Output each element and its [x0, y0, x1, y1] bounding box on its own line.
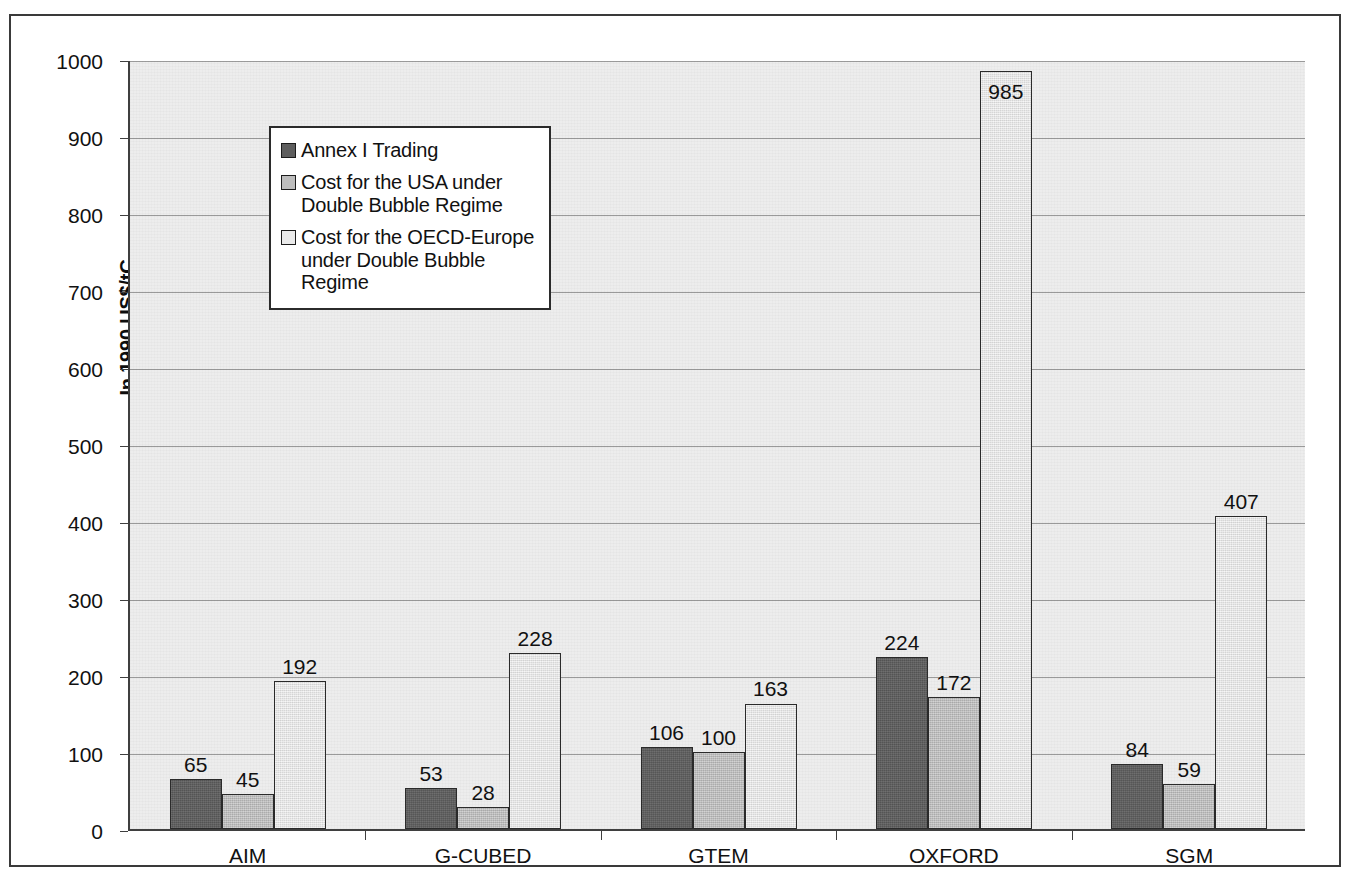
- y-tick-mark: [120, 446, 128, 447]
- x-category-label-sgm: SGM: [1072, 845, 1307, 866]
- gridline: [130, 446, 1305, 447]
- gridline: [130, 61, 1305, 62]
- legend-item-2: Cost for the USA underDouble Bubble Regi…: [281, 171, 549, 216]
- gridline: [130, 600, 1305, 601]
- x-category-label-oxford: OXFORD: [836, 845, 1071, 866]
- y-tick-label: 400: [11, 513, 103, 534]
- y-tick-label: 800: [11, 205, 103, 226]
- bar-gtem-series3: [745, 704, 797, 830]
- x-tick-mark: [601, 831, 602, 840]
- x-tick-mark: [836, 831, 837, 840]
- bar-g-cubed-series3: [509, 653, 561, 829]
- gridline: [130, 369, 1305, 370]
- chart-legend: Annex I TradingCost for the USA underDou…: [269, 126, 551, 310]
- y-tick-label: 100: [11, 744, 103, 765]
- bar-value-label: 192: [262, 656, 338, 677]
- y-tick-mark: [120, 61, 128, 62]
- legend-swatch-icon: [281, 175, 296, 190]
- x-tick-mark: [1072, 831, 1073, 840]
- gridline: [130, 523, 1305, 524]
- legend-label: Cost for the OECD-Europeunder Double Bub…: [301, 226, 549, 293]
- bar-value-label: 53: [393, 763, 469, 784]
- bar-sgm-series2: [1163, 784, 1215, 829]
- y-tick-mark: [120, 292, 128, 293]
- y-tick-label: 1000: [11, 51, 103, 72]
- legend-label: Cost for the USA underDouble Bubble Regi…: [301, 171, 503, 216]
- bar-gtem-series2: [693, 752, 745, 829]
- bar-value-label: 224: [864, 632, 940, 653]
- y-tick-label: 900: [11, 128, 103, 149]
- y-tick-mark: [120, 831, 128, 832]
- x-category-label-g-cubed: G-CUBED: [365, 845, 600, 866]
- y-tick-label: 0: [11, 821, 103, 842]
- y-tick-label: 300: [11, 590, 103, 611]
- y-tick-label: 200: [11, 667, 103, 688]
- plot-area: 654519253282281061001632241729858459407 …: [128, 61, 1305, 831]
- y-tick-label: 600: [11, 359, 103, 380]
- y-tick-mark: [120, 369, 128, 370]
- y-tick-label: 700: [11, 282, 103, 303]
- bar-aim-series3: [274, 681, 326, 829]
- bar-sgm-series3: [1215, 516, 1267, 829]
- y-tick-label: 500: [11, 436, 103, 457]
- y-tick-mark: [120, 754, 128, 755]
- legend-item-3: Cost for the OECD-Europeunder Double Bub…: [281, 226, 549, 293]
- x-tick-mark: [365, 831, 366, 840]
- legend-swatch-icon: [281, 230, 296, 245]
- y-tick-mark: [120, 523, 128, 524]
- x-category-label-aim: AIM: [130, 845, 365, 866]
- bar-value-label: 407: [1203, 491, 1279, 512]
- bar-value-label: 84: [1099, 739, 1175, 760]
- bar-g-cubed-series2: [457, 807, 509, 829]
- y-tick-mark: [120, 677, 128, 678]
- y-tick-mark: [120, 600, 128, 601]
- x-category-label-gtem: GTEM: [601, 845, 836, 866]
- bar-aim-series2: [222, 794, 274, 829]
- bar-oxford-series2: [928, 697, 980, 829]
- bar-oxford-series3: [980, 71, 1032, 829]
- y-tick-mark: [120, 138, 128, 139]
- figure-frame: In 1990 US$/tC 0100200300400500600700800…: [9, 14, 1341, 867]
- bar-gtem-series1: [641, 747, 693, 829]
- legend-label: Annex I Trading: [301, 139, 438, 161]
- bar-value-label: 985: [968, 81, 1044, 102]
- bar-value-label: 228: [497, 628, 573, 649]
- bar-value-label: 163: [733, 678, 809, 699]
- y-tick-mark: [120, 215, 128, 216]
- chart-page: In 1990 US$/tC 0100200300400500600700800…: [0, 0, 1355, 888]
- legend-swatch-icon: [281, 143, 296, 158]
- legend-item-1: Annex I Trading: [281, 139, 549, 161]
